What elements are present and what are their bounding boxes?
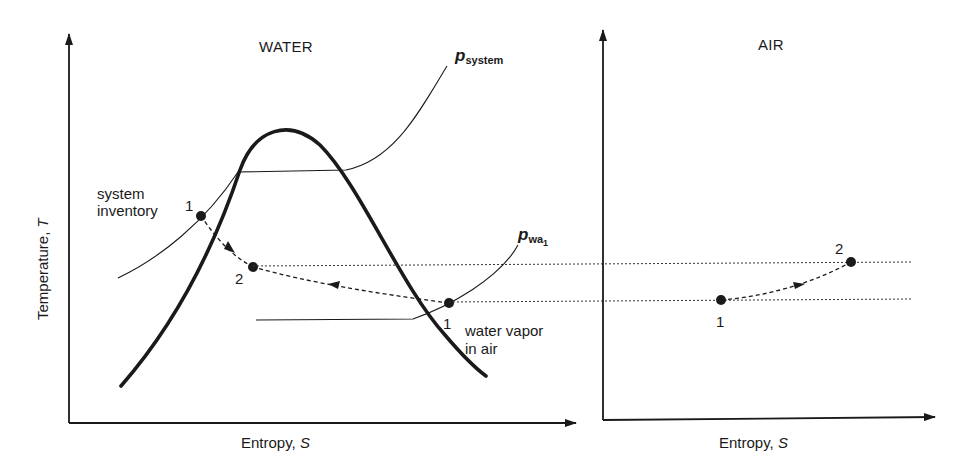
water-point-1-vapor — [444, 298, 454, 308]
p-system-label: psystem — [455, 47, 503, 64]
air-x-axis-label: Entropy, S — [719, 435, 788, 450]
air-point-1 — [716, 295, 726, 305]
water-point-1-label: 1 — [185, 198, 193, 213]
vapor-to-state2-path — [253, 267, 449, 303]
air-process-path — [721, 262, 851, 300]
air-x-axis — [603, 417, 935, 420]
water-point-2 — [248, 262, 258, 272]
process-arrow-icon — [793, 282, 805, 289]
p-wa1-label: pwa1 — [518, 226, 548, 243]
diagram-canvas — [0, 0, 964, 475]
system-process-path — [201, 216, 253, 267]
saturation-dome-curve — [121, 130, 486, 386]
air-title: AIR — [758, 37, 784, 52]
water-vapor-label: water vapor in air — [465, 322, 543, 358]
water-x-axis-label: Entropy, S — [241, 435, 310, 450]
p-system-isobar — [118, 66, 447, 278]
water-y-axis-label: Temperature, T — [35, 218, 50, 320]
air-point-2-label: 2 — [835, 241, 843, 256]
air-point-1-label: 1 — [716, 314, 724, 329]
water-point-1-system — [196, 211, 206, 221]
temperature-level-1-line — [449, 299, 913, 302]
air-point-2 — [846, 257, 856, 267]
water-point-2-label: 2 — [235, 271, 243, 286]
water-vapor-point-1-label: 1 — [443, 316, 451, 331]
system-inventory-label: system inventory — [97, 185, 158, 219]
water-panel — [69, 34, 576, 423]
water-title: WATER — [259, 39, 313, 54]
air-panel — [603, 30, 935, 420]
temperature-level-2-line — [253, 262, 913, 266]
p-wa1-isobar — [256, 245, 518, 320]
